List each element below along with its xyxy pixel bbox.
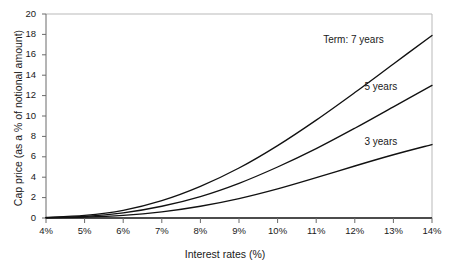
x-tick-label: 5% xyxy=(65,225,105,236)
x-tick-label: 7% xyxy=(142,225,182,236)
x-tick-label: 9% xyxy=(219,225,259,236)
series-annotation-0: Term: 7 years xyxy=(323,34,384,45)
x-tick-label: 14% xyxy=(412,225,450,236)
x-tick-label: 4% xyxy=(26,225,66,236)
series-annotation-2: 3 years xyxy=(364,136,397,147)
y-axis-ticks xyxy=(42,14,46,218)
y-axis-title: Cap price (as a % of notional amount) xyxy=(12,8,24,228)
chart-figure: 02468101214161820 4%5%6%7%8%9%10%11%12%1… xyxy=(0,0,450,271)
x-tick-label: 11% xyxy=(296,225,336,236)
x-tick-label: 8% xyxy=(180,225,220,236)
series-annotation-1: 5 years xyxy=(364,81,397,92)
x-tick-label: 10% xyxy=(258,225,298,236)
x-tick-label: 12% xyxy=(335,225,375,236)
x-tick-label: 13% xyxy=(373,225,413,236)
x-axis-title: Interest rates (%) xyxy=(0,248,450,260)
x-tick-label: 6% xyxy=(103,225,143,236)
